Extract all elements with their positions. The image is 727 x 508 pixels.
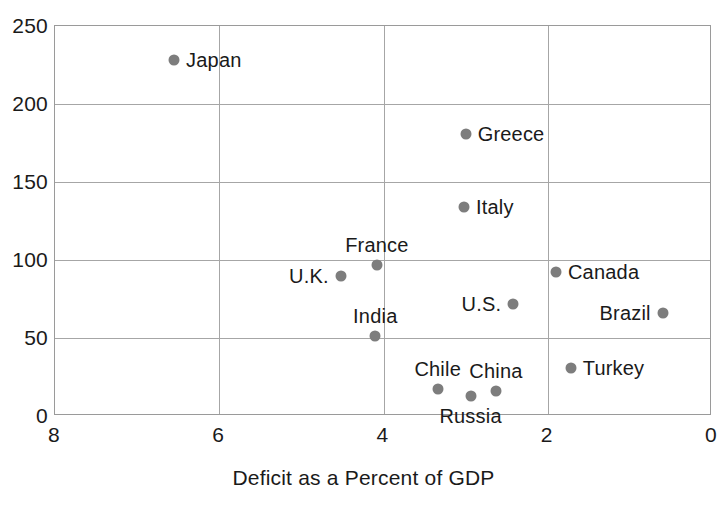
x-tick-label-2: 2 xyxy=(541,424,553,445)
x-tick-label-4: 4 xyxy=(377,424,389,445)
gridline-y-200 xyxy=(55,104,710,105)
y-tick-label-250: 250 xyxy=(2,15,48,36)
tick-line-x-4 xyxy=(384,26,385,414)
point-label-india: India xyxy=(353,306,397,326)
data-point-chile[interactable] xyxy=(432,384,443,395)
tick-line-x-2 xyxy=(548,26,549,414)
point-label-canada: Canada xyxy=(568,262,639,282)
scatter-chart-figure: 050100150200250 JapanGreeceItalyFranceU.… xyxy=(0,0,727,508)
y-axis-tick-labels: 050100150200250 xyxy=(0,0,48,508)
point-label-brazil: Brazil xyxy=(600,303,651,323)
data-point-france[interactable] xyxy=(371,259,382,270)
gridline-y-50 xyxy=(55,338,710,339)
y-tick-label-0: 0 xyxy=(2,405,48,426)
data-point-italy[interactable] xyxy=(458,201,469,212)
point-label-france: France xyxy=(345,235,408,255)
plot-area: JapanGreeceItalyFranceU.K.CanadaU.S.Braz… xyxy=(54,25,711,415)
data-point-russia[interactable] xyxy=(465,390,476,401)
data-point-china[interactable] xyxy=(491,386,502,397)
data-point-japan[interactable] xyxy=(169,55,180,66)
y-tick-label-150: 150 xyxy=(2,171,48,192)
point-label-japan: Japan xyxy=(186,50,242,70)
x-tick-label-6: 6 xyxy=(212,424,224,445)
point-label-turkey: Turkey xyxy=(583,358,645,378)
point-label-chile: Chile xyxy=(414,359,461,379)
data-point-india[interactable] xyxy=(370,331,381,342)
point-label-uk: U.K. xyxy=(289,266,329,286)
data-point-brazil[interactable] xyxy=(657,308,668,319)
y-tick-label-50: 50 xyxy=(2,327,48,348)
data-point-us[interactable] xyxy=(508,298,519,309)
gridline-y-150 xyxy=(55,182,710,183)
data-point-uk[interactable] xyxy=(335,270,346,281)
point-label-greece: Greece xyxy=(478,124,545,144)
x-axis-title: Deficit as a Percent of GDP xyxy=(0,466,727,490)
data-point-greece[interactable] xyxy=(460,128,471,139)
x-tick-label-0: 0 xyxy=(705,424,717,445)
point-label-china: China xyxy=(469,361,522,381)
point-label-russia: Russia xyxy=(439,406,501,426)
point-label-italy: Italy xyxy=(476,197,514,217)
y-tick-label-100: 100 xyxy=(2,249,48,270)
y-tick-label-200: 200 xyxy=(2,93,48,114)
point-label-us: U.S. xyxy=(462,294,502,314)
data-point-turkey[interactable] xyxy=(565,362,576,373)
data-point-canada[interactable] xyxy=(550,267,561,278)
tick-line-x-6 xyxy=(219,26,220,414)
x-tick-label-8: 8 xyxy=(48,424,60,445)
